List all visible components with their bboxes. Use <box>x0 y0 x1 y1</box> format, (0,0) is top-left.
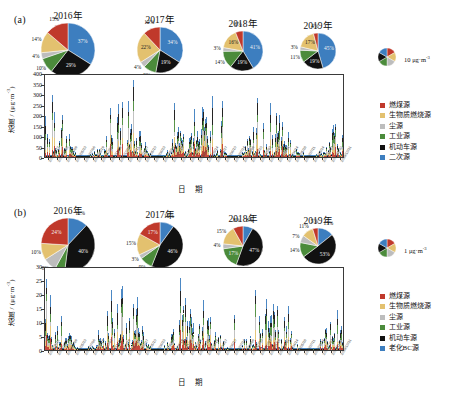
stacked-bar-segment <box>212 108 213 124</box>
stacked-bar-segment <box>337 325 338 334</box>
stacked-bar-segment <box>133 80 134 87</box>
stacked-bar-segment <box>47 147 48 149</box>
y-tick-mark <box>41 127 44 128</box>
stacked-bar-segment <box>114 333 115 336</box>
stacked-bar-segment <box>247 145 248 147</box>
stacked-bar-segment <box>281 343 282 344</box>
pie-chart: 2019年45%19%11%3%17%4% <box>299 32 337 70</box>
pie-slice-label: 10% <box>164 215 174 220</box>
stacked-bar-segment <box>222 138 223 143</box>
stacked-bar-segment <box>278 330 279 332</box>
stacked-bar-segment <box>174 110 175 120</box>
stacked-bar-segment <box>253 127 254 131</box>
stacked-bar-segment <box>106 136 107 140</box>
stacked-bar-segment <box>134 144 135 145</box>
panel-a-label: (a) <box>14 14 26 25</box>
stacked-bar-segment <box>185 322 186 326</box>
pie-chart: 2018年8%47%17%4%15%8% <box>222 225 264 267</box>
stacked-bar-segment <box>335 137 336 143</box>
pie-slice-label: 8% <box>246 218 253 223</box>
pie-slice-label: 29% <box>66 64 76 69</box>
stacked-bar-segment <box>106 142 107 147</box>
stacked-bar-segment <box>110 108 111 115</box>
pie-slice-label: 14% <box>290 249 300 254</box>
scale-key-unit: 10 μg·m-3 <box>404 55 430 63</box>
stacked-bar-segment <box>288 306 289 314</box>
stacked-bar-segment <box>276 125 277 133</box>
stacked-bar-segment <box>194 136 195 141</box>
panel-b-plot-frame <box>44 267 344 351</box>
y-tick-mark <box>41 158 44 159</box>
stacked-bar-segment <box>114 336 115 337</box>
stacked-bar-segment <box>187 333 188 336</box>
stacked-bar-segment <box>276 116 277 125</box>
stacked-bar-segment <box>183 314 184 323</box>
y-tick-label: 200 <box>22 113 42 119</box>
y-tick-mark <box>41 106 44 107</box>
legend-item: 尘源 <box>380 312 431 323</box>
stacked-bar-segment <box>207 136 208 139</box>
legend-label: 燃煤源 <box>389 102 410 109</box>
stacked-bar-segment <box>59 143 60 145</box>
legend-item: 老化BC源 <box>380 344 431 355</box>
legend-item: 工业源 <box>380 323 431 334</box>
stacked-bar-segment <box>112 149 113 152</box>
stacked-bar-segment <box>49 139 50 143</box>
legend-swatch-icon <box>380 124 385 129</box>
stacked-bar-segment <box>122 125 123 138</box>
y-tick-label: 300 <box>22 92 42 98</box>
stacked-bar-segment <box>66 136 67 139</box>
stacked-bar-segment <box>206 128 207 135</box>
stacked-bar-segment <box>51 339 52 342</box>
pie-chart: 2018年41%19%14%3%16%6% <box>222 30 264 72</box>
pie-slice-label: 12% <box>75 212 85 217</box>
stacked-bar <box>255 290 256 350</box>
stacked-bar-segment <box>173 329 174 332</box>
stacked-bar-segment <box>288 138 289 142</box>
stacked-bar-segment <box>222 101 223 108</box>
y-tick-mark <box>41 116 44 117</box>
stacked-bar-segment <box>47 333 48 334</box>
stacked-bar-segment <box>218 337 219 338</box>
stacked-bar-segment <box>131 129 132 135</box>
stacked-bar-segment <box>50 295 51 307</box>
stacked-bar <box>47 134 48 157</box>
stacked-bar-segment <box>274 315 275 324</box>
stacked-bar-segment <box>174 344 175 345</box>
pie-chart: 2016年37%29%10%4%14%15% <box>40 22 96 78</box>
pie-slice-label: 4% <box>134 66 141 71</box>
stacked-bar-segment <box>137 316 138 328</box>
stacked-bar-segment <box>141 143 142 145</box>
stacked-bar-segment <box>114 329 115 334</box>
stacked-bar-segment <box>284 321 285 329</box>
y-tick-mark <box>41 74 44 75</box>
stacked-bar-segment <box>260 333 261 335</box>
stacked-bar-segment <box>288 142 289 146</box>
stacked-bar-segment <box>122 118 123 124</box>
stacked-bar-segment <box>272 148 273 150</box>
stacked-bar-segment <box>215 332 216 336</box>
stacked-bar-segment <box>291 331 292 334</box>
stacked-bar-segment <box>111 301 112 312</box>
stacked-bar-segment <box>266 316 267 331</box>
pie-slice-label: 10% <box>31 251 41 256</box>
stacked-bar-segment <box>107 311 108 316</box>
stacked-bar-segment <box>222 127 223 138</box>
stacked-bar-segment <box>218 344 219 346</box>
stacked-bar-segment <box>191 324 192 327</box>
stacked-bar-segment <box>286 326 287 332</box>
stacked-bar-segment <box>291 334 292 335</box>
stacked-bar <box>49 139 50 157</box>
stacked-bar-segment <box>183 310 184 314</box>
stacked-bar-segment <box>139 334 140 338</box>
scale-key-pie <box>378 48 396 66</box>
stacked-bar-segment <box>220 339 221 343</box>
y-tick-label: 20 <box>22 292 42 298</box>
stacked-bar-segment <box>197 131 198 137</box>
y-tick-label: 10 <box>22 320 42 326</box>
y-tick-label: 30 <box>22 264 42 270</box>
stacked-bar-segment <box>140 136 141 142</box>
stacked-bar-segment <box>105 341 106 342</box>
pie-slice-label: 6% <box>234 23 241 28</box>
stacked-bar-segment <box>326 333 327 337</box>
